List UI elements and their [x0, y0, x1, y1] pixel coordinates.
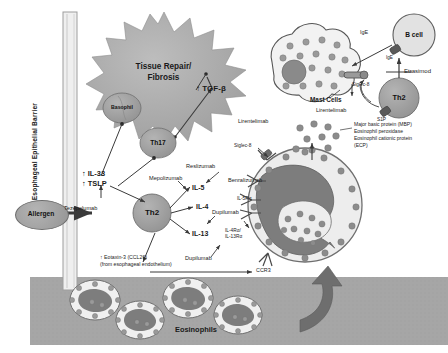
tissue-eosinophil-2: [116, 301, 165, 339]
epithelial-barrier-bar: [63, 12, 77, 290]
tissue-eosinophil-3: [162, 278, 213, 318]
ecp-abbrev-label: (ECP): [354, 143, 368, 148]
s1p-label: S1P: [377, 117, 386, 122]
il33-label: ↑ IL-33: [82, 170, 105, 178]
th2-left-cell: [133, 194, 171, 232]
tezepelumab-label: Tezepelumab: [64, 205, 97, 211]
mast-cell: [271, 24, 368, 102]
il4ra-label: IL-4Rα/: [225, 228, 241, 233]
mast-cells-label: Mast Cells: [310, 97, 342, 104]
tslp-label: ↑ TSLP: [82, 180, 107, 188]
th17-anchor-arrow: [118, 156, 156, 186]
il13ra-label: IL-13Rα: [225, 234, 242, 239]
ccr3-label: CCR3: [256, 268, 271, 274]
large-eosinophil: [248, 148, 362, 262]
mbp-label: Major basic protein (MBP): [354, 122, 412, 127]
siglec8-mast-label: Siglec-8: [352, 82, 369, 87]
etrasimod-label: Etrasimod: [404, 68, 431, 74]
eosinophil-peroxidase-label: Eosinophil peroxidase: [354, 129, 403, 134]
ige-label: IgE: [360, 30, 368, 36]
ige-receptor-label: IgE: [386, 56, 393, 61]
tissue-eosinophil-1: [69, 280, 120, 320]
allergen-cell: [15, 200, 69, 230]
tissue-eosinophil-4: [214, 296, 263, 334]
granule-protein-label-connector: [340, 128, 352, 130]
eotaxin3-label: ↑ Eotaxin-3 (CCL26): [100, 255, 147, 261]
figure-canvas: Esophageal Epithelial Barrier Tissue Rep…: [0, 0, 448, 353]
diagram-graphics: [0, 0, 448, 353]
il13-label: IL-13: [192, 230, 208, 238]
tissue-repair-line2: Fibrosis: [106, 74, 221, 83]
siglec8-eosinophil-label: Siglec-8: [234, 143, 251, 148]
apc-anchor-arrow: [101, 122, 124, 176]
dupilumab-bottom-label: Dupilumab: [185, 255, 212, 261]
eosinophils-label: Eosinophils: [175, 326, 217, 334]
dupilumab-top-label: Dupilumab: [212, 209, 239, 215]
tissue-repair-line1: Tissue Repair/: [106, 63, 221, 72]
tgf-beta-label: ↑ TGF-β: [196, 85, 226, 94]
reslizumab-label: Reslizumab: [186, 163, 215, 169]
th17-cell: [140, 128, 176, 158]
lirentelimab-eos-label: Lirentelimab: [238, 118, 268, 124]
il4-label: IL-4: [196, 203, 208, 211]
alarmin-arrow: [101, 185, 145, 202]
lirentelimab-mast-label: Lirentelimab: [316, 107, 346, 113]
il5-label: IL-5: [192, 184, 204, 192]
il5ra-label: IL-5Rα: [237, 196, 252, 201]
eotaxin-source-label: (from esophageal endothelium): [100, 262, 172, 268]
ecp-label: Eosinophil cationic protein: [354, 136, 412, 141]
benralizumab-label: Benralizumab: [228, 177, 262, 183]
antigen-presenting-cell: [103, 93, 141, 123]
mepolizumab-label: Mepolizumab: [149, 175, 182, 181]
